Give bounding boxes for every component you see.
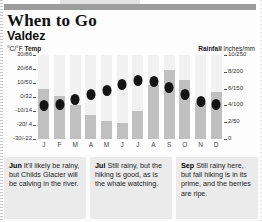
rainfall-bar (70, 105, 81, 139)
temp-tick-label: 20/68 (2, 65, 32, 71)
rainfall-tick-label: 0 (228, 135, 260, 141)
rainfall-bar (101, 121, 112, 139)
temp-tick-label: -20/ 4 (2, 121, 32, 127)
temperature-dot (86, 89, 95, 100)
month-tick-label: F (54, 141, 65, 148)
chart-month-column (85, 55, 96, 139)
destination-name: Valdez (7, 29, 45, 43)
chart-plot-area (36, 55, 224, 139)
temp-tick-label: -30/-22 (2, 135, 32, 141)
section-rule (4, 4, 256, 10)
month-notes-panel: Jun It'll likely be rainy, but Childs Gl… (4, 157, 258, 219)
month-tick-label: J (38, 141, 49, 148)
month-note-month: Sep (181, 161, 194, 170)
temp-tick-label: -10/14 (2, 107, 32, 113)
temperature-dot (118, 79, 127, 90)
month-note-month: Jun (9, 161, 22, 170)
page-title: When to Go (7, 11, 97, 31)
temperature-dot (39, 100, 48, 111)
rainfall-axis-label: Rainfall (198, 45, 221, 52)
rainfall-bar (38, 89, 49, 139)
rainfall-bar (164, 70, 175, 139)
rainfall-tick-label: 4/100 (228, 101, 260, 107)
rainfall-tick-label: 2/50 (228, 118, 260, 124)
chart-month-column (54, 55, 65, 139)
temperature-dot (149, 76, 158, 87)
temp-tick-mark (33, 139, 36, 140)
temperature-dot (102, 85, 111, 96)
temp-tick-label: 0/32 (2, 93, 32, 99)
month-note: Jul Still rainy, but the hiking is good,… (90, 157, 172, 219)
rainfall-tick-mark (224, 55, 227, 56)
rainfall-tick-label: 6/150 (228, 85, 260, 91)
month-note-month: Jul (95, 161, 105, 170)
rainfall-bar (85, 115, 96, 139)
chart-month-column (179, 55, 190, 139)
rainfall-tick-mark (224, 105, 227, 106)
rainfall-tick-mark (224, 122, 227, 123)
temperature-dot (196, 96, 205, 107)
month-tick-label: M (70, 141, 81, 148)
temp-tick-label: 10/50 (2, 79, 32, 85)
chart-month-column (164, 55, 175, 139)
rainfall-bar (117, 123, 128, 139)
rainfall-tick-mark (224, 89, 227, 90)
chart-month-column (195, 55, 206, 139)
month-axis: JFMAMJJASOND (36, 141, 224, 153)
rainfall-tick-mark (224, 139, 227, 140)
chart-month-column (101, 55, 112, 139)
month-note: Sep Still rainy here, but fall hiking is… (176, 157, 258, 219)
month-tick-label: O (179, 141, 190, 148)
chart-month-column (38, 55, 49, 139)
rainfall-tick-mark (224, 72, 227, 73)
temperature-dot (165, 82, 174, 93)
month-tick-label: S (164, 141, 175, 148)
temperature-dot (133, 75, 142, 86)
rainfall-bar (148, 85, 159, 139)
chart-month-column (211, 55, 222, 139)
climate-chart: 30/8620/6810/500/32-10/14-20/ 4-30/-22 1… (0, 53, 262, 145)
month-tick-label: J (117, 141, 128, 148)
rainfall-bar (132, 111, 143, 139)
temperature-dot (212, 99, 221, 110)
temperature-dot (71, 94, 80, 105)
month-tick-label: A (85, 141, 96, 148)
month-tick-label: N (195, 141, 206, 148)
temp-tick-label: 30/86 (2, 51, 32, 57)
month-tick-label: A (148, 141, 159, 148)
chart-month-column (148, 55, 159, 139)
temperature-dot (180, 89, 189, 100)
month-note-text: Still rainy, but the hiking is good, as … (95, 161, 162, 188)
rainfall-bar (195, 103, 206, 139)
chart-month-column (117, 55, 128, 139)
rainfall-tick-label: 8/200 (228, 68, 260, 74)
page-root: When to Go Valdez °C/°F Temp Rainfall in… (0, 0, 262, 222)
month-note: Jun It'll likely be rainy, but Childs Gl… (4, 157, 86, 219)
month-tick-label: D (211, 141, 222, 148)
chart-month-column (70, 55, 81, 139)
month-tick-label: M (101, 141, 112, 148)
month-tick-label: J (132, 141, 143, 148)
temperature-dot (55, 99, 64, 110)
chart-month-column (132, 55, 143, 139)
rainfall-tick-label: 10/250 (228, 51, 260, 57)
